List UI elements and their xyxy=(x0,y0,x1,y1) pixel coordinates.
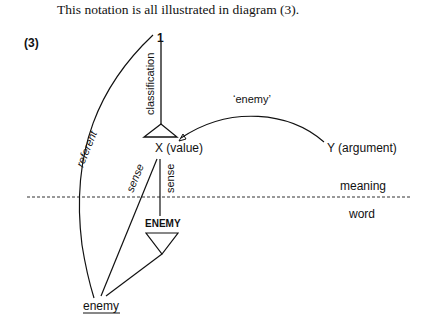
label-referent: referent xyxy=(74,128,100,169)
argument-arc xyxy=(181,116,324,142)
label-sense-diagonal: sense xyxy=(124,162,146,194)
node-top: 1 xyxy=(157,31,164,45)
level-meaning: meaning xyxy=(340,179,386,193)
instance-line xyxy=(106,254,162,296)
word-grammar-diagram: 1 classification referent X (value) Y (a… xyxy=(0,0,431,329)
node-value: X (value) xyxy=(155,141,203,155)
node-lexeme: ENEMY xyxy=(145,218,181,229)
isa-triangle-lexeme xyxy=(146,233,178,254)
label-classification: classification xyxy=(144,53,156,115)
isa-triangle-value xyxy=(144,124,177,137)
level-word: word xyxy=(348,207,375,221)
label-sense-vertical: sense xyxy=(164,164,176,193)
label-argument-relation: ‘enemy’ xyxy=(233,93,271,105)
node-word-form: enemy xyxy=(83,299,119,313)
node-argument: Y (argument) xyxy=(327,141,397,155)
